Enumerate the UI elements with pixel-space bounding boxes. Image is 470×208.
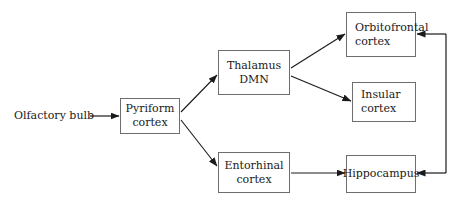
node-entorhinal-cortex: Entorhinal cortex: [218, 152, 290, 193]
node-orbitofrontal-cortex-line2: cortex: [355, 35, 390, 49]
node-pyriform-cortex-line1: Pyriform: [126, 102, 175, 116]
node-thalamus-dmn-line2: DMN: [239, 73, 269, 87]
node-orbitofrontal-cortex-line1: Orbitofrontal: [355, 21, 428, 35]
flow-diagram: Olfactory bulb Pyriform cortex Thalamus …: [0, 0, 470, 208]
edge-pyriform-to-entorhinal: [181, 120, 217, 166]
node-olfactory-bulb: Olfactory bulb: [14, 109, 94, 123]
node-pyriform-cortex-line2: cortex: [132, 116, 167, 130]
node-thalamus-dmn-line1: Thalamus: [227, 59, 281, 73]
node-entorhinal-cortex-line1: Entorhinal: [224, 159, 283, 173]
node-orbitofrontal-cortex: Orbitofrontal cortex: [346, 12, 416, 57]
edge-thalamus-to-orbitofrontal: [291, 34, 345, 68]
node-hippocampus: Hippocampus: [346, 155, 416, 193]
node-pyriform-cortex: Pyriform cortex: [120, 98, 180, 134]
node-insular-cortex-line2: cortex: [361, 102, 396, 116]
edge-thalamus-to-insular: [291, 76, 351, 101]
edge-pyriform-to-thalamus: [181, 75, 217, 112]
node-insular-cortex-line1: Insular: [361, 88, 401, 102]
node-thalamus-dmn: Thalamus DMN: [218, 50, 290, 95]
node-hippocampus-line1: Hippocampus: [343, 167, 420, 181]
node-insular-cortex: Insular cortex: [352, 82, 416, 122]
node-entorhinal-cortex-line2: cortex: [236, 173, 271, 187]
